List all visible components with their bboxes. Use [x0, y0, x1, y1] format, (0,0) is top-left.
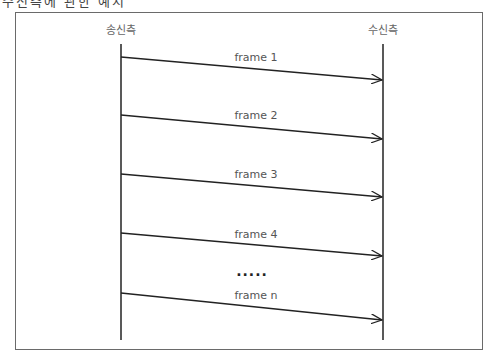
ellipsis: ..... — [236, 263, 268, 279]
message-frame-2: frame 2 — [121, 109, 382, 139]
receiver-label: 수신측 — [368, 24, 398, 37]
message-frame-1: frame 1 — [121, 51, 382, 80]
message-label: frame 4 — [234, 228, 277, 241]
message-label: frame n — [234, 289, 277, 302]
message-frame-3: frame 3 — [121, 168, 382, 197]
message-label: frame 1 — [234, 51, 277, 64]
message-frame-n: frame n — [121, 289, 382, 320]
sender-label: 송신측 — [106, 24, 136, 37]
message-frame-4: frame 4 — [121, 228, 382, 256]
message-label: frame 3 — [234, 168, 277, 181]
sequence-diagram: 송신측 수신측 frame 1 frame 2 frame 3 frame 4 … — [0, 0, 496, 364]
message-label: frame 2 — [234, 109, 277, 122]
